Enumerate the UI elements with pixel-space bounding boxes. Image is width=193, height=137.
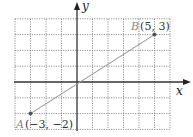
y-axis-arrow-icon	[74, 2, 80, 10]
y-axis-label: y	[81, 0, 89, 13]
point-a-marker	[29, 112, 33, 116]
point-b-name: B	[130, 20, 139, 33]
point-a-coords: (−3, −2)	[25, 118, 73, 131]
x-axis-arrow-icon	[183, 79, 191, 85]
coordinate-plane: x y B(5, 3) A(−3, −2)	[0, 0, 193, 137]
point-b-coords: (5, 3)	[140, 20, 170, 33]
point-b-marker	[153, 33, 157, 37]
x-axis-label: x	[176, 84, 183, 98]
segment-line	[31, 35, 155, 114]
point-a-name: A	[15, 118, 24, 131]
point-a-label: A(−3, −2)	[15, 118, 73, 131]
point-b-label: B(5, 3)	[130, 20, 170, 33]
